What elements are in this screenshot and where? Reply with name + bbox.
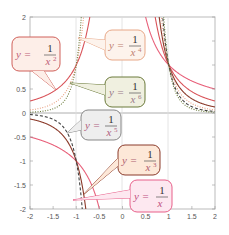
svg-text:x: x: [130, 46, 136, 58]
x-tick-label: -0.5: [93, 213, 105, 220]
x-tick-label: 0.5: [141, 213, 151, 220]
x-tick-label: 1: [167, 213, 171, 220]
svg-text:1: 1: [147, 148, 153, 160]
y-tick-label: -1: [20, 158, 26, 165]
svg-text:3: 3: [153, 161, 157, 169]
svg-text:1: 1: [132, 33, 138, 45]
svg-text:1: 1: [47, 42, 53, 54]
svg-text:x: x: [106, 126, 112, 138]
svg-text:5: 5: [114, 126, 118, 134]
svg-text:1: 1: [159, 184, 165, 196]
y-tick-label: 2: [22, 14, 26, 21]
y-tick-label: -1.5: [14, 182, 26, 189]
y-tick-label: -2: [20, 206, 26, 213]
svg-text:y =: y =: [108, 39, 124, 51]
svg-text:2: 2: [53, 55, 57, 63]
x-tick-label: 2: [213, 213, 217, 220]
y-tick-label: 0: [22, 110, 26, 117]
svg-text:y =: y =: [108, 86, 124, 98]
svg-text:4: 4: [138, 46, 142, 54]
svg-text:1: 1: [132, 80, 138, 92]
svg-text:y =: y =: [133, 190, 149, 202]
y-tick-label: 0.5: [16, 86, 26, 93]
svg-text:y =: y =: [84, 119, 100, 131]
svg-text:x: x: [157, 197, 163, 209]
x-tick-label: -1.5: [47, 213, 59, 220]
x-tick-label: 0: [121, 213, 125, 220]
x-tick-label: -1: [73, 213, 79, 220]
svg-text:x: x: [45, 55, 51, 67]
svg-text:x: x: [130, 93, 136, 105]
svg-text:y =: y =: [121, 154, 137, 166]
svg-text:y =: y =: [15, 48, 31, 60]
svg-text:x: x: [145, 161, 151, 173]
y-tick-label: -0.5: [14, 134, 26, 141]
svg-text:6: 6: [138, 93, 142, 101]
svg-text:1: 1: [108, 113, 114, 125]
power-function-chart: -2-1.5-1-0.500.511.5221.510.50-0.5-1-1.5…: [0, 0, 229, 235]
x-tick-label: -2: [27, 213, 33, 220]
x-tick-label: 1.5: [187, 213, 197, 220]
